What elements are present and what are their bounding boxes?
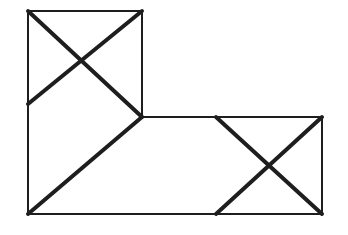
right-x-box bbox=[216, 117, 322, 214]
l-shape-outline bbox=[28, 11, 322, 214]
diagram-canvas bbox=[0, 0, 348, 235]
upper-x-box bbox=[28, 11, 142, 117]
middle-brace-diagonal bbox=[28, 117, 142, 214]
